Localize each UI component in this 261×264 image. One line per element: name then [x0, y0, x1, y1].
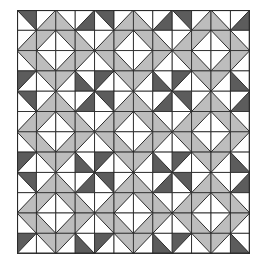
quilt-cell	[133, 30, 152, 50]
quilt-cell	[153, 30, 172, 50]
quilt-cell	[114, 193, 133, 213]
quilt-cell	[172, 213, 191, 233]
quilt-cell	[172, 91, 191, 111]
quilt-cell	[36, 30, 55, 50]
quilt-cell	[192, 112, 211, 132]
quilt-cell	[95, 71, 114, 91]
quilt-cell	[56, 152, 75, 172]
quilt-cell	[133, 71, 152, 91]
quilt-cell	[17, 71, 36, 91]
quilt-cell	[36, 152, 55, 172]
quilt-cell	[211, 91, 230, 111]
quilt-cell	[114, 172, 133, 192]
quilt-cell	[172, 152, 191, 172]
quilt-cell	[192, 71, 211, 91]
quilt-cell	[172, 132, 191, 152]
quilt-cell	[114, 10, 133, 30]
quilt-cell	[211, 233, 230, 253]
quilt-cell	[17, 233, 36, 253]
quilt-cell	[172, 193, 191, 213]
quilt-cell	[114, 112, 133, 132]
quilt-cell	[230, 213, 249, 233]
quilt-cell	[95, 112, 114, 132]
quilt-cell	[95, 233, 114, 253]
quilt-cell	[56, 193, 75, 213]
quilt-cell	[230, 172, 249, 192]
quilt-cell	[95, 51, 114, 71]
quilt-cell	[133, 233, 152, 253]
quilt-cell	[133, 193, 152, 213]
quilt-cell	[153, 71, 172, 91]
quilt-cell	[211, 213, 230, 233]
quilt-cell	[114, 51, 133, 71]
quilt-cell	[192, 193, 211, 213]
quilt-cell	[17, 112, 36, 132]
quilt-cell	[133, 91, 152, 111]
quilt-cell	[230, 51, 249, 71]
quilt-cell	[192, 233, 211, 253]
quilt-cell	[153, 51, 172, 71]
quilt-cell	[17, 172, 36, 192]
quilt-cell	[211, 30, 230, 50]
quilt-cell	[17, 193, 36, 213]
quilt-cell	[75, 152, 94, 172]
quilt-cell	[230, 193, 249, 213]
quilt-cell	[153, 152, 172, 172]
quilt-cell	[75, 71, 94, 91]
quilt-cell	[56, 71, 75, 91]
quilt-cell	[172, 51, 191, 71]
quilt-cell	[95, 10, 114, 30]
quilt-cell	[211, 193, 230, 213]
quilt-cell	[75, 51, 94, 71]
quilt-cell	[95, 172, 114, 192]
quilt-cell	[153, 172, 172, 192]
quilt-cell	[172, 112, 191, 132]
quilt-cell	[36, 193, 55, 213]
quilt-cell	[192, 91, 211, 111]
quilt-cell	[75, 112, 94, 132]
quilt-cell	[17, 132, 36, 152]
quilt-cell	[56, 233, 75, 253]
quilt-cell	[133, 10, 152, 30]
quilt-cell	[133, 152, 152, 172]
quilt-cell	[153, 91, 172, 111]
quilt-cell	[230, 71, 249, 91]
quilt-cell	[75, 193, 94, 213]
quilt-cell	[192, 213, 211, 233]
quilt-cell	[172, 233, 191, 253]
quilt-cell	[17, 10, 36, 30]
quilt-cell	[75, 233, 94, 253]
quilt-cell	[36, 91, 55, 111]
quilt-cell	[211, 10, 230, 30]
quilt-cell	[17, 91, 36, 111]
quilt-cell	[36, 132, 55, 152]
quilt-cell	[75, 132, 94, 152]
quilt-cell	[95, 30, 114, 50]
quilt-cell	[230, 91, 249, 111]
quilt-cell	[56, 91, 75, 111]
quilt-cell	[133, 132, 152, 152]
quilt-cell	[95, 91, 114, 111]
quilt-cell	[56, 112, 75, 132]
quilt-cell	[153, 112, 172, 132]
quilt-cell	[95, 152, 114, 172]
quilt-cell	[75, 213, 94, 233]
quilt-cell	[133, 51, 152, 71]
quilt-cell	[192, 132, 211, 152]
quilt-cell	[172, 172, 191, 192]
quilt-cell	[230, 152, 249, 172]
quilt-cell	[36, 172, 55, 192]
quilt-cell	[75, 91, 94, 111]
quilt-cell	[192, 30, 211, 50]
quilt-cell	[211, 172, 230, 192]
quilt-cell	[114, 91, 133, 111]
quilt-cell	[153, 10, 172, 30]
quilt-cell	[153, 213, 172, 233]
quilt-cell	[133, 172, 152, 192]
quilt-cell	[36, 112, 55, 132]
quilt-cell	[36, 71, 55, 91]
quilt-cell	[211, 132, 230, 152]
quilt-cell	[192, 172, 211, 192]
quilt-cell	[133, 112, 152, 132]
quilt-cell	[36, 51, 55, 71]
